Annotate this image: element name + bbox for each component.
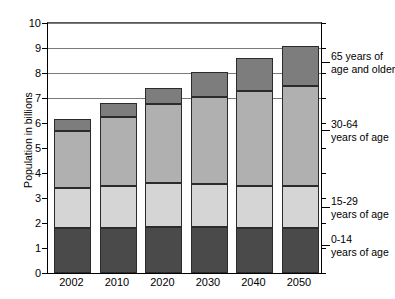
y-axis-tick-right	[321, 273, 326, 274]
legend-label-line2: years of age	[331, 208, 389, 221]
bar-segment-2020-2	[145, 104, 182, 183]
y-axis-tick-right	[321, 123, 326, 124]
y-axis-tick-label: 6	[35, 118, 41, 129]
y-axis-tick	[42, 73, 48, 74]
bar-2040	[236, 23, 273, 273]
bar-segment-2040-3	[236, 58, 273, 91]
y-axis-tick-right	[321, 248, 326, 249]
bar-segment-2030-0	[191, 227, 228, 273]
legend-callout-tick	[321, 62, 330, 63]
legend-item[interactable]: 0-14years of age	[331, 233, 389, 258]
legend-label-line2: years of age	[331, 246, 389, 259]
y-axis-title: Population in billions	[22, 60, 34, 220]
y-axis-tick-label: 4	[35, 168, 41, 179]
y-axis-tick-right	[321, 23, 326, 24]
legend-label-line1: 65 years of	[331, 50, 395, 63]
legend-item[interactable]: 15-29years of age	[331, 195, 389, 220]
bar-2050	[282, 23, 319, 273]
legend-label-line1: 30-64	[331, 118, 389, 131]
bar-segment-2002-3	[54, 119, 91, 130]
legend-label-line2: years of age	[331, 131, 389, 144]
bar-segment-2040-1	[236, 186, 273, 229]
bar-segment-2030-1	[191, 184, 228, 227]
bar-segment-2020-3	[145, 88, 182, 104]
y-axis-tick-right	[321, 98, 326, 99]
y-axis-tick	[42, 198, 48, 199]
legend-item[interactable]: 65 years ofage and older	[331, 50, 395, 75]
y-axis-tick-label: 5	[35, 143, 41, 154]
y-axis-tick-label: 7	[35, 93, 41, 104]
bar-segment-2010-3	[100, 103, 137, 117]
bar-segment-2050-0	[282, 228, 319, 273]
bar-segment-2050-1	[282, 186, 319, 229]
y-axis-tick-label: 2	[35, 218, 41, 229]
bar-2020	[145, 23, 182, 273]
legend-label-line1: 0-14	[331, 233, 389, 246]
y-axis-tick-right	[321, 73, 326, 74]
legend-callout-tick	[321, 130, 330, 131]
y-axis-tick-label: 10	[29, 18, 41, 29]
y-axis-tick-label: 9	[35, 43, 41, 54]
y-axis-tick-right	[321, 148, 326, 149]
legend-callout-tick	[321, 207, 330, 208]
y-axis-tick-right	[321, 198, 326, 199]
y-axis-tick-right	[321, 48, 326, 49]
bar-segment-2010-1	[100, 186, 137, 229]
y-axis-tick-label: 8	[35, 68, 41, 79]
y-axis-tick	[42, 173, 48, 174]
bar-segment-2040-0	[236, 228, 273, 273]
bar-segment-2050-3	[282, 46, 319, 86]
bar-segment-2020-1	[145, 183, 182, 227]
y-axis-tick	[42, 123, 48, 124]
y-axis-tick-label: 1	[35, 243, 41, 254]
legend-callout-tick	[321, 245, 330, 246]
y-axis-tick	[42, 148, 48, 149]
y-axis-tick	[42, 48, 48, 49]
bar-segment-2030-3	[191, 72, 228, 97]
bar-segment-2002-2	[54, 131, 91, 189]
y-axis-tick-label: 0	[35, 268, 41, 279]
bar-segment-2010-2	[100, 117, 137, 186]
legend-label-line1: 15-29	[331, 195, 389, 208]
y-axis-tick-right	[321, 173, 326, 174]
y-axis-tick	[42, 273, 48, 274]
bar-segment-2010-0	[100, 228, 137, 273]
bar-segment-2002-1	[54, 188, 91, 228]
y-axis-tick	[42, 98, 48, 99]
bar-segment-2020-0	[145, 227, 182, 273]
y-axis-tick-right	[321, 223, 326, 224]
plot-area: 012345678910	[47, 22, 322, 274]
legend-item[interactable]: 30-64years of age	[331, 118, 389, 143]
bar-2002	[54, 23, 91, 273]
bar-segment-2050-2	[282, 86, 319, 186]
bar-2010	[100, 23, 137, 273]
bar-segment-2040-2	[236, 91, 273, 186]
y-axis-tick-label: 3	[35, 193, 41, 204]
legend-label-line2: age and older	[331, 63, 395, 76]
y-axis-tick	[42, 223, 48, 224]
y-axis-tick	[42, 248, 48, 249]
bar-segment-2002-0	[54, 228, 91, 273]
bar-2030	[191, 23, 228, 273]
y-axis-tick	[42, 23, 48, 24]
bar-segment-2030-2	[191, 97, 228, 185]
x-axis-tick-label: 2050	[269, 276, 329, 288]
